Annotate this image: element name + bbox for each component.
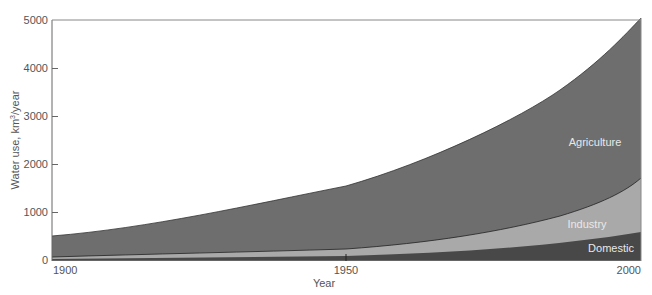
y-tick-5000: 5000 [24, 14, 48, 26]
y-ticks [52, 69, 58, 213]
y-tick-4000: 4000 [24, 62, 48, 74]
y-tick-3000: 3000 [24, 110, 48, 122]
y-tick-2000: 2000 [24, 158, 48, 170]
agriculture-label: Agriculture [569, 136, 622, 148]
stacked-area-chart: 5000 4000 3000 2000 1000 0 1900 1950 200… [0, 0, 652, 295]
domestic-label: Domestic [588, 242, 634, 254]
y-tick-0: 0 [42, 254, 48, 266]
y-tick-1000: 1000 [24, 206, 48, 218]
x-tick-1900: 1900 [53, 264, 77, 276]
x-tick-1950-label: 1950 [334, 264, 358, 276]
x-axis-title: Year [313, 277, 336, 289]
industry-label: Industry [567, 218, 607, 230]
y-axis-title: Water use, km3/year [9, 90, 21, 189]
x-tick-2000: 2000 [617, 264, 641, 276]
